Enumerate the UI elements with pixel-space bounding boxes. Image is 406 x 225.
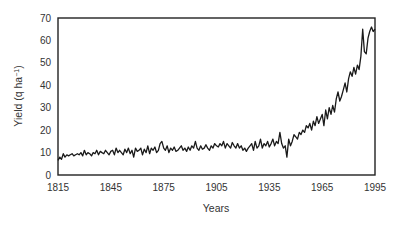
x-tick-label: 1845 — [100, 182, 123, 193]
y-tick-label: 20 — [40, 125, 52, 136]
x-tick-label: 1905 — [205, 182, 228, 193]
y-axis-label: Yield (q ha−1) — [12, 65, 24, 126]
yield-line-chart: 010203040506070 181518451875190519351965… — [0, 0, 406, 225]
x-axis-label: Years — [203, 202, 229, 214]
x-tick-label: 1965 — [311, 182, 334, 193]
x-tick-label: 1995 — [364, 182, 387, 193]
y-tick-label: 40 — [40, 80, 52, 91]
y-tick-label: 10 — [40, 147, 52, 158]
y-axis-ticks: 010203040506070 — [40, 13, 52, 181]
x-tick-label: 1815 — [47, 182, 70, 193]
y-tick-label: 60 — [40, 35, 52, 46]
y-tick-label: 50 — [40, 57, 52, 68]
yield-series-line — [58, 27, 375, 160]
y-tick-label: 70 — [40, 13, 52, 24]
y-tick-label: 30 — [40, 102, 52, 113]
x-tick-label: 1875 — [153, 182, 176, 193]
y-tick-label: 0 — [45, 170, 51, 181]
x-tick-label: 1935 — [258, 182, 281, 193]
x-axis-ticks: 1815184518751905193519651995 — [47, 182, 387, 193]
